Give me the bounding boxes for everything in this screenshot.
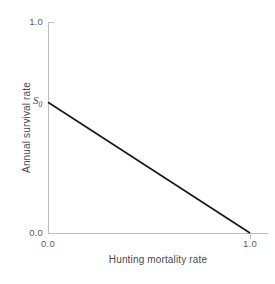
plot-area	[0, 0, 275, 284]
data-series-line	[48, 102, 250, 233]
chart-figure: 1.0 0.0 0.0 1.0 S0 Hunting mortality rat…	[0, 0, 275, 284]
